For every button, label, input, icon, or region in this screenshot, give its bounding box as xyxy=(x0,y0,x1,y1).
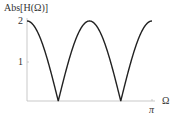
x-tick-label-pi: π xyxy=(149,104,155,115)
x-axis-label: Ω xyxy=(162,95,169,106)
y-tick-label-2: 2 xyxy=(18,15,23,26)
magnitude-curve xyxy=(27,21,152,101)
y-tick-label-1: 1 xyxy=(18,56,23,67)
magnitude-response-chart: Abs[H(Ω)] 2 1 Ω π xyxy=(0,0,193,117)
y-axis-label: Abs[H(Ω)] xyxy=(4,2,48,14)
